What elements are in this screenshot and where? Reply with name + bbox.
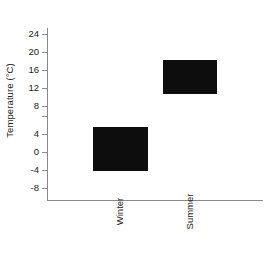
y-axis-line — [47, 28, 48, 201]
y-tick-mark — [42, 88, 47, 89]
y-tick-label: 20 — [5, 47, 39, 57]
y-tick-label: 8 — [5, 101, 39, 111]
y-tick-label: 12 — [5, 83, 39, 93]
x-axis-line — [47, 200, 263, 201]
x-category-text: Winter — [115, 198, 126, 225]
y-tick-mark — [42, 170, 47, 171]
y-tick-label: 4 — [5, 129, 39, 139]
y-tick-label: 16 — [5, 65, 39, 75]
temperature-range-chart: Temperature (°C) 24 20 16 12 8 4 0 -4 -8… — [0, 0, 271, 254]
x-category-label-summer: Summer — [184, 206, 196, 252]
y-tick-mark — [42, 116, 47, 117]
y-tick-label: 0 — [5, 147, 39, 157]
y-tick-mark — [42, 106, 47, 107]
x-category-label-winter: Winter — [114, 206, 126, 252]
x-category-text: Summer — [185, 194, 196, 230]
y-tick-label: 24 — [5, 29, 39, 39]
y-tick-mark — [42, 34, 47, 35]
y-tick-mark — [42, 52, 47, 53]
y-tick-mark — [42, 134, 47, 135]
y-tick-label: -4 — [5, 165, 39, 175]
y-tick-mark — [42, 188, 47, 189]
y-tick-mark — [42, 70, 47, 71]
bar-summer — [163, 60, 217, 94]
y-tick-label: -8 — [5, 183, 39, 193]
bar-winter — [93, 127, 148, 171]
y-tick-mark — [42, 152, 47, 153]
